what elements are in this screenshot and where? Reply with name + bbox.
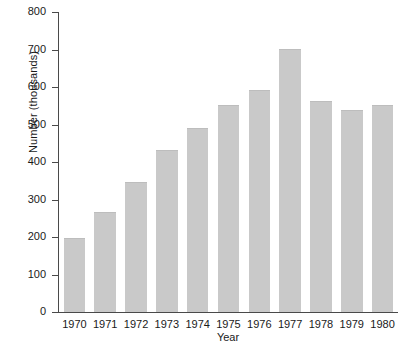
y-tick-mark (52, 200, 58, 201)
x-tick-label: 1976 (244, 318, 275, 330)
y-tick-mark (52, 125, 58, 126)
y-tick-mark (52, 312, 58, 313)
y-tick-label: 300 (0, 194, 46, 205)
bar-slot (244, 12, 275, 312)
y-tick-label: 600 (0, 81, 46, 92)
bar-slot (306, 12, 337, 312)
x-tick-label: 1972 (121, 318, 152, 330)
bar-chart: Number (thousands) 010020030040050060070… (0, 0, 404, 349)
bar-slot (275, 12, 306, 312)
y-tick-mark (52, 162, 58, 163)
bar-slot (367, 12, 398, 312)
bar (279, 49, 301, 312)
bar (125, 182, 147, 312)
x-tick-label: 1979 (336, 318, 367, 330)
y-tick-mark (52, 275, 58, 276)
bar-slot (151, 12, 182, 312)
bar-slot (336, 12, 367, 312)
y-tick-label: 800 (0, 6, 46, 17)
bar-slot (90, 12, 121, 312)
x-tick-label: 1974 (182, 318, 213, 330)
y-tick-label: 200 (0, 231, 46, 242)
x-tick-label: 1978 (306, 318, 337, 330)
y-tick-label: 700 (0, 44, 46, 55)
bar (372, 105, 394, 312)
plot-area (59, 12, 398, 312)
bar (341, 110, 363, 312)
bar (218, 105, 240, 312)
y-tick-mark (52, 237, 58, 238)
bar (94, 212, 116, 313)
x-tick-label: 1973 (151, 318, 182, 330)
y-tick-label: 100 (0, 269, 46, 280)
x-axis-title: Year (58, 331, 398, 343)
x-tick-label: 1977 (275, 318, 306, 330)
x-tick-label: 1970 (59, 318, 90, 330)
bar-slot (182, 12, 213, 312)
bar-slot (213, 12, 244, 312)
bar (156, 150, 178, 312)
x-tick-label: 1971 (90, 318, 121, 330)
y-tick-mark (52, 12, 58, 13)
y-tick-mark (52, 50, 58, 51)
bar (249, 90, 271, 312)
y-tick-label: 500 (0, 119, 46, 130)
y-tick-label: 0 (0, 306, 46, 317)
x-tick-label: 1980 (367, 318, 398, 330)
x-axis-line (58, 312, 398, 313)
y-tick-label: 400 (0, 156, 46, 167)
bar (310, 101, 332, 312)
bar-slot (121, 12, 152, 312)
bar (64, 238, 86, 312)
y-tick-mark (52, 87, 58, 88)
x-tick-label: 1975 (213, 318, 244, 330)
bar (187, 128, 209, 312)
bar-slot (59, 12, 90, 312)
